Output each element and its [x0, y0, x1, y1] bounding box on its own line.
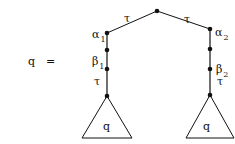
right-node-2 — [208, 47, 213, 52]
left-alpha-label: α1 — [92, 28, 106, 44]
left-node-4 — [105, 94, 110, 99]
equals-sign: = — [46, 55, 55, 68]
left-subtree-label: q — [103, 120, 110, 133]
root-edge-left — [107, 11, 157, 33]
right-node-1 — [208, 27, 213, 32]
right-node-3 — [208, 67, 213, 72]
right-tau-label: τ — [217, 75, 223, 88]
process-tree-diagram: q = τ τ α1 β1 τ q α2 β2 τ q — [0, 0, 235, 144]
left-beta-label: β1 — [92, 55, 104, 71]
left-node-3 — [105, 67, 110, 72]
right-subtree-label: q — [203, 120, 210, 133]
root-edge-right-label: τ — [184, 13, 190, 26]
left-node-1 — [105, 31, 110, 36]
left-node-2 — [105, 48, 110, 53]
right-alpha-label: α2 — [215, 26, 229, 42]
root-edge-left-label: τ — [124, 12, 130, 25]
right-node-4 — [208, 93, 213, 98]
left-tau-label: τ — [94, 75, 100, 88]
root-node — [155, 9, 160, 14]
lhs-symbol: q — [28, 55, 35, 68]
